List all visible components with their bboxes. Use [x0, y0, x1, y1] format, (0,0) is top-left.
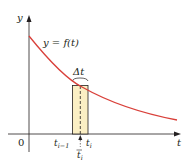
riemann-strip-diagram: y t 0 y = f(t) Δt ti−1 ti ti — [0, 0, 193, 162]
y-axis-arrow-icon — [27, 15, 32, 22]
origin-label: 0 — [18, 137, 24, 148]
y-axis-label: y — [16, 12, 23, 23]
x-axis-arrow-icon — [174, 132, 181, 137]
tick-label-t-i-sample: ti — [77, 150, 83, 162]
tick-label-t-i-minus-1: ti−1 — [54, 138, 69, 150]
curve-label: y = f(t) — [42, 37, 79, 48]
curve-f-of-t — [29, 36, 177, 120]
sample-point-arrow-icon — [78, 135, 82, 140]
tick-label-t-i: ti — [86, 138, 92, 150]
delta-t-brace — [73, 78, 89, 81]
delta-t-label: Δt — [72, 66, 85, 77]
x-axis-label: t — [177, 137, 182, 148]
